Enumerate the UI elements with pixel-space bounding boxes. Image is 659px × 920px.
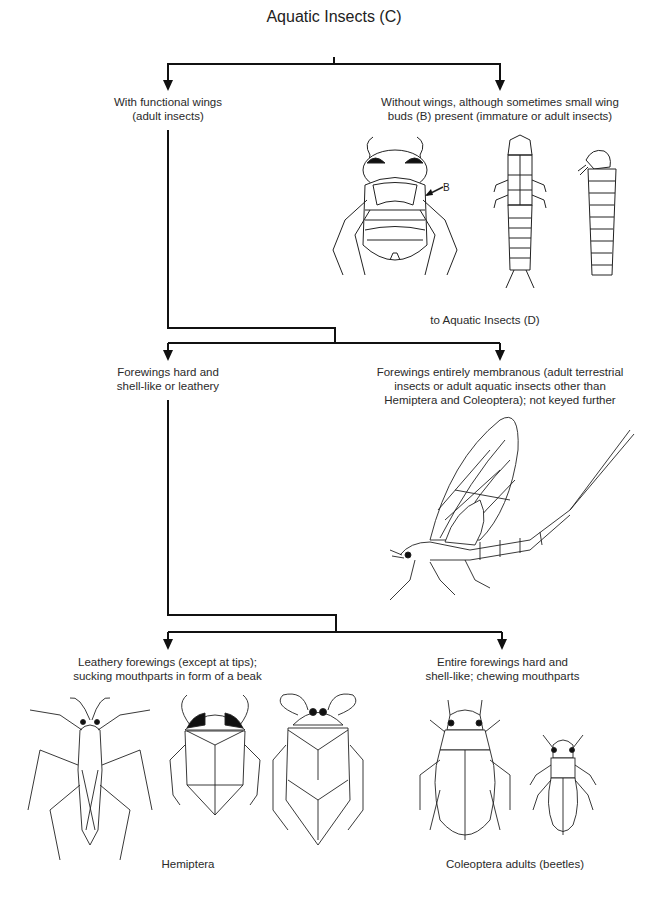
mayfly-illustration: [370, 410, 640, 610]
water-beetle-larva-illustration: B: [325, 135, 465, 295]
node-text: Leathery forewings (except at tips);: [60, 655, 275, 669]
node-forewings-membranous: Forewings entirely membranous (adult ter…: [365, 365, 635, 407]
group-label-coleoptera: Coleoptera adults (beetles): [440, 857, 590, 871]
caddisfly-case-illustration: [572, 145, 627, 280]
giant-water-bug-illustration: [268, 690, 368, 850]
node-text: insects or adult aquatic insects other t…: [365, 379, 635, 393]
link-aquatic-insects-d[interactable]: to Aquatic Insects (D): [405, 313, 565, 327]
node-text: Hemiptera and Coleoptera); not keyed fur…: [365, 393, 635, 407]
node-text: buds (B) present (immature or adult inse…: [370, 109, 630, 123]
node-entire-forewings-hard: Entire forewings hard and shell-like; ch…: [420, 655, 585, 683]
backswimmer-illustration: [165, 695, 265, 820]
node-text: Forewings hard and: [98, 365, 238, 379]
node-text: sucking mouthparts in form of a beak: [60, 669, 275, 683]
node-text: Entire forewings hard and: [420, 655, 585, 669]
group-label-hemiptera: Hemiptera: [148, 857, 228, 871]
node-text: (adult insects): [88, 109, 248, 123]
water-strider-illustration: [20, 690, 160, 860]
hellgrammite-larva-illustration: [490, 130, 550, 300]
node-text: With functional wings: [88, 95, 248, 109]
node-with-wings: With functional wings (adult insects): [88, 95, 248, 123]
node-without-wings: Without wings, although sometimes small …: [370, 95, 630, 123]
node-text: Forewings entirely membranous (adult ter…: [365, 365, 635, 379]
small-beetle-illustration: [528, 730, 598, 840]
diagram-title: Aquatic Insects (C): [234, 8, 434, 26]
node-forewings-hard: Forewings hard and shell-like or leather…: [98, 365, 238, 393]
node-leathery-forewings: Leathery forewings (except at tips); suc…: [60, 655, 275, 683]
wing-bud-label: B: [443, 182, 450, 193]
node-text: shell-like or leathery: [98, 379, 238, 393]
node-text: shell-like; chewing mouthparts: [420, 669, 585, 683]
node-text: Without wings, although sometimes small …: [370, 95, 630, 109]
diving-beetle-illustration: [415, 700, 515, 845]
